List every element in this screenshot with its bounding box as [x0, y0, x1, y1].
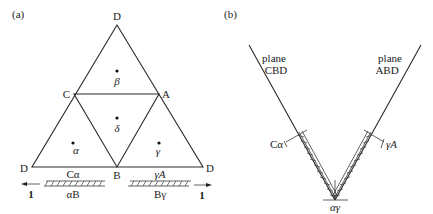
right-arrow-icon	[194, 183, 212, 187]
left-arrow-label: 1	[28, 188, 34, 200]
left-hatched-bar	[44, 181, 105, 186]
vertex-a: A	[162, 88, 170, 100]
region-alpha-label: α	[73, 144, 79, 156]
vertex-c: C	[63, 88, 70, 100]
panel-b: (b) plane CBD plane ABD Cα	[224, 8, 421, 213]
right-hatched-band	[332, 130, 384, 199]
vertex-b: B	[113, 169, 120, 181]
left-bar-bottom-label: αB	[66, 188, 79, 200]
plane-cbd-line	[249, 45, 335, 200]
left-hatched-band	[284, 130, 338, 199]
panel-a: (a) D C A D B D β δ α γ	[12, 8, 214, 201]
left-bar-top-label: Cα	[66, 168, 79, 180]
vertex-bottom-left-d: D	[20, 162, 28, 174]
region-delta-label: δ	[114, 122, 120, 134]
plane-cbd-label-line1: plane	[262, 52, 286, 64]
right-bar-bottom-label: Bγ	[154, 188, 166, 200]
vertex-label: αγ	[330, 201, 341, 213]
plane-abd-label-line2: ABD	[375, 64, 398, 76]
plane-abd-label-line1: plane	[378, 52, 402, 64]
vertex-bottom-right-d: D	[206, 162, 214, 174]
region-beta-dot	[115, 69, 118, 72]
left-marker-label: Cα	[270, 138, 283, 150]
outer-triangle	[32, 25, 203, 167]
right-bar-top-label: γA	[154, 168, 165, 180]
panel-b-label: (b)	[224, 8, 237, 21]
right-arrow-label: 1	[199, 189, 205, 201]
plane-cbd-label-line2: CBD	[265, 64, 288, 76]
figure: (a) D C A D B D β δ α γ	[0, 0, 433, 214]
right-hatched-bar	[128, 181, 191, 186]
region-gamma-label: γ	[156, 145, 161, 157]
panel-a-label: (a)	[12, 8, 25, 21]
right-marker-label: γA	[386, 138, 397, 150]
left-arrow-icon	[21, 182, 40, 186]
region-beta-label: β	[113, 75, 120, 87]
vertex-top-d: D	[113, 10, 121, 22]
region-delta-dot	[115, 116, 118, 119]
